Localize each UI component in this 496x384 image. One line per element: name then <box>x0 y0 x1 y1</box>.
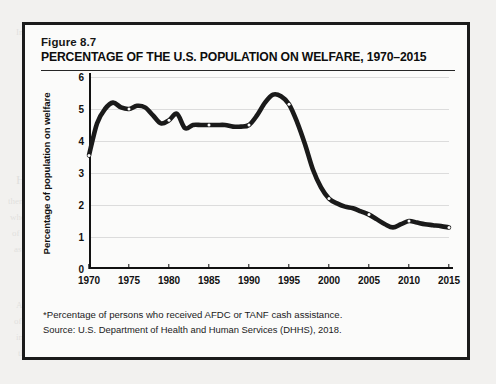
figure-number: Figure 8.7 <box>41 35 453 49</box>
data-point-marker <box>88 154 91 157</box>
figure-footnotes: *Percentage of persons who received AFDC… <box>41 308 453 336</box>
data-point-marker <box>448 226 451 229</box>
y-axis-label: Percentage of population on welfare <box>39 75 55 271</box>
figure-title: PERCENTAGE OF THE U.S. POPULATION ON WEL… <box>41 50 453 65</box>
y-axis-label-text: Percentage of population on welfare <box>42 92 53 254</box>
x-tick-label: 2005 <box>358 275 380 286</box>
data-point-marker <box>328 197 331 200</box>
x-tick-label: 1980 <box>158 275 180 286</box>
y-tick-label: 4 <box>78 136 84 147</box>
title-divider <box>41 70 455 71</box>
data-point-marker <box>288 103 291 106</box>
x-tick-label: 1975 <box>118 275 140 286</box>
y-tick-label: 0 <box>78 264 84 275</box>
data-point-marker <box>368 213 371 216</box>
y-tick-label: 3 <box>78 168 84 179</box>
data-point-marker <box>208 124 211 127</box>
data-point-marker <box>128 108 131 111</box>
data-point-marker <box>168 119 171 122</box>
footnote-text: *Percentage of persons who received AFDC… <box>43 308 453 321</box>
x-tick-label: 2010 <box>398 275 420 286</box>
source-text: Source: U.S. Department of Health and Hu… <box>43 323 453 336</box>
data-series-line <box>89 94 449 227</box>
x-tick-label: 1990 <box>238 275 260 286</box>
x-tick-label: 2000 <box>318 275 340 286</box>
data-point-marker <box>408 220 411 223</box>
y-tick-label: 6 <box>78 72 84 83</box>
y-tick-label: 1 <box>78 232 84 243</box>
figure-frame: Figure 8.7 PERCENTAGE OF THE U.S. POPULA… <box>22 22 470 360</box>
welfare-percentage-line-chart <box>89 77 449 269</box>
chart-plot-wrapper: Percentage of population on welfare 0123… <box>41 75 459 288</box>
data-point-markers <box>88 103 451 229</box>
x-tick-label: 1995 <box>278 275 300 286</box>
y-tick-label: 2 <box>78 200 84 211</box>
data-point-marker <box>248 124 251 127</box>
x-tick-label: 1970 <box>78 275 100 286</box>
x-tick-label: 1985 <box>198 275 220 286</box>
figure-content: Figure 8.7 PERCENTAGE OF THE U.S. POPULA… <box>25 25 467 357</box>
y-tick-label: 5 <box>78 104 84 115</box>
plot-area: 0123456 19701975198019851990199520002005… <box>89 77 449 269</box>
x-tick-label: 2015 <box>438 275 460 286</box>
